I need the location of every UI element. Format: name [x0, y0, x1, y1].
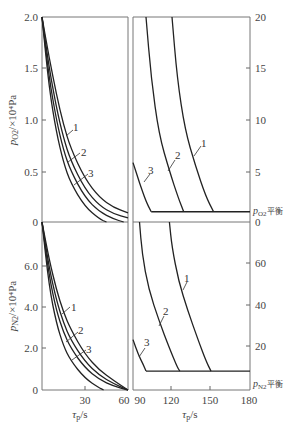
curve-label-1: 1 — [184, 272, 190, 284]
tick-label: 1.0 — [24, 114, 38, 126]
tick-label: 10 — [255, 114, 267, 126]
x-tick-label: 150 — [202, 394, 219, 406]
x-tick-label: 90 — [135, 394, 147, 406]
curve-label-2: 2 — [81, 146, 87, 158]
tick-label: 2.0 — [24, 342, 38, 354]
top-left-frame — [42, 17, 128, 390]
curve-top-right-2 — [146, 17, 184, 212]
x-axis-title-left: τp/s — [72, 408, 87, 422]
curve-top-right-1 — [172, 17, 214, 212]
curve-bottom-left-3 — [42, 222, 128, 390]
x-axis-title-right: τp/s — [182, 408, 197, 422]
curve-label-2: 2 — [78, 324, 84, 336]
tick-label: 5 — [255, 166, 261, 178]
x-tick-label: 60 — [119, 394, 131, 406]
tick-label: 40 — [255, 299, 267, 311]
curve-bottom-right-2 — [140, 222, 180, 371]
curve-bottom-left-2 — [42, 222, 128, 390]
tick-label: 0 — [33, 216, 39, 228]
x-tick-label: 180 — [241, 394, 258, 406]
curve-label-2: 2 — [175, 149, 181, 161]
curve-label-1: 1 — [201, 137, 207, 149]
tick-label: 6.0 — [24, 260, 38, 272]
chart-figure: 2.0 1.5 1.0 0.5 0 6.0 4.0 2.0 0 20 15 10… — [0, 0, 294, 424]
tick-label: 15 — [255, 62, 267, 74]
curves — [42, 17, 250, 390]
tick-label: 2.0 — [24, 11, 38, 23]
curve-label-1: 1 — [71, 301, 77, 313]
tick-label: 20 — [255, 340, 267, 352]
tick-label: 0 — [33, 384, 39, 396]
tick-label: 0.5 — [24, 166, 38, 178]
curve-top-left-1 — [42, 17, 128, 213]
x-tick-label: 120 — [163, 394, 180, 406]
curve-bottom-right-1 — [169, 222, 211, 371]
eq-n2-label: pN2平衡 — [252, 378, 283, 391]
curve-label-3: 3 — [148, 164, 154, 176]
tick-label: 1.5 — [24, 62, 38, 74]
curve-top-left-2 — [42, 17, 128, 218]
curve-top-left-base — [42, 17, 107, 222]
curve-label-2: 2 — [163, 305, 169, 317]
tick-label: 60 — [255, 257, 267, 269]
x-tick-label: 30 — [80, 394, 92, 406]
curve-label-3: 3 — [144, 336, 150, 348]
y-axis-title-top: pO2/×10⁴Pa — [6, 95, 20, 146]
curve-label-1: 1 — [73, 121, 79, 133]
tick-label: 4.0 — [24, 301, 38, 313]
curve-label-3: 3 — [88, 167, 94, 179]
y-axis-title-bottom: pN2/×10⁴Pa — [6, 281, 20, 332]
curve-label-3: 3 — [86, 343, 92, 355]
curve-bottom-left-1 — [42, 222, 128, 390]
tick-label: 20 — [255, 11, 267, 23]
